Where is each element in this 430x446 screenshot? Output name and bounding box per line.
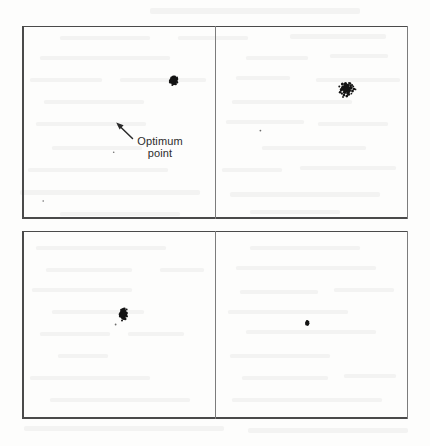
particle-cluster-bottom-right bbox=[215, 231, 408, 418]
stray-points bbox=[260, 130, 262, 132]
optimum-point-annotation-label: Optimum point bbox=[127, 136, 193, 159]
panel-grid-center-divider-top bbox=[215, 26, 216, 219]
panel-grid-outer-right-border-top bbox=[407, 26, 408, 219]
stray-points bbox=[42, 151, 114, 201]
particle-cluster-bottom-left bbox=[22, 231, 215, 418]
scatter-panel-bottom-right bbox=[215, 231, 408, 418]
cluster-points bbox=[305, 320, 309, 326]
cluster-points bbox=[119, 308, 128, 322]
optimum-label-line-2: point bbox=[127, 148, 193, 160]
particle-cluster-top-right bbox=[215, 26, 408, 218]
cluster-points bbox=[169, 75, 179, 86]
panel-grid-outer-left-border-top bbox=[22, 26, 24, 219]
scatter-panel-bottom-left bbox=[22, 231, 215, 418]
stray-points bbox=[115, 324, 117, 326]
cluster-points bbox=[338, 82, 356, 98]
scatter-panel-top-right bbox=[215, 26, 408, 218]
four-panel-scatter-figure: Optimum point bbox=[0, 0, 430, 446]
panel-grid-outer-left-border-bottom bbox=[22, 231, 24, 419]
panel-grid-center-divider-bottom bbox=[215, 231, 216, 419]
optimum-label-line-1: Optimum bbox=[127, 136, 193, 148]
panel-grid-outer-right-border-bottom bbox=[407, 231, 408, 419]
